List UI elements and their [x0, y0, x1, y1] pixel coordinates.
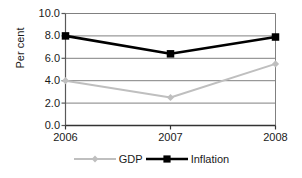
legend-swatch-gdp	[72, 152, 118, 166]
chart-container: Per cent 0.02.04.06.08.010.0 20062007200…	[0, 0, 302, 178]
axis-frame	[66, 14, 276, 126]
legend-label-gdp: GDP	[118, 153, 144, 165]
legend-item-gdp: GDP	[72, 152, 144, 166]
chart-legend: GDP Inflation	[0, 152, 302, 166]
series-lines	[62, 32, 280, 101]
axis-ticks	[62, 14, 276, 130]
gridlines	[66, 36, 276, 103]
legend-item-inflation: Inflation	[144, 152, 231, 166]
legend-swatch-inflation	[144, 152, 190, 166]
legend-label-inflation: Inflation	[190, 153, 231, 165]
